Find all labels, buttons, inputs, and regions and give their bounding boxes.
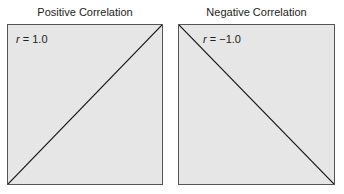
chart-title-positive: Positive Correlation <box>7 6 163 18</box>
r-annotation-negative: r = −1.0 <box>203 33 241 45</box>
negative-diagonal-line <box>179 25 334 184</box>
r-value: = 1.0 <box>20 33 48 45</box>
r-annotation-positive: r = 1.0 <box>16 33 48 45</box>
chart-title-negative: Negative Correlation <box>178 6 335 18</box>
plot-negative-correlation: r = −1.0 <box>178 24 335 185</box>
positive-diagonal-line <box>8 25 162 184</box>
plot-positive-correlation: r = 1.0 <box>7 24 163 185</box>
r-value: = −1.0 <box>207 33 241 45</box>
